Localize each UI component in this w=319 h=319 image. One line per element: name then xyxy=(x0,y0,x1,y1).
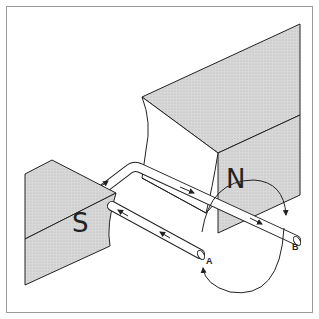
coil-bottom xyxy=(112,206,206,261)
south-magnet: S xyxy=(25,160,116,285)
terminal-b-label: B xyxy=(292,242,299,252)
south-pole-label: S xyxy=(72,208,89,238)
diagram-canvas: N S B A xyxy=(0,0,319,319)
north-pole-label: N xyxy=(226,164,245,194)
terminal-a-label: A xyxy=(206,256,213,266)
